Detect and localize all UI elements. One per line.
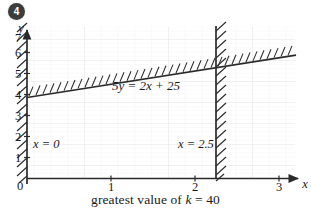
y-tick-label-6: 6 xyxy=(15,46,21,60)
answer-caption: greatest value of k = 40 xyxy=(0,192,311,208)
x-tick-label-3: 3 xyxy=(276,180,282,192)
x-two-point-five-label: x = 2.5 xyxy=(177,137,214,151)
grid xyxy=(27,27,295,178)
caption-prefix: greatest value of xyxy=(91,192,185,207)
y-axis-label: y xyxy=(16,21,24,35)
x-axis-label: x xyxy=(301,177,308,191)
x-tick-label-0: 0 xyxy=(17,179,23,192)
x-tick-label-2: 2 xyxy=(192,180,198,192)
y-tick-label-5: 5 xyxy=(15,67,21,81)
x-tick-label-1: 1 xyxy=(108,180,114,192)
graph-figure: 0 1 2 3 1 2 3 4 5 6 7 x y 5y = 2x + 25 x… xyxy=(0,18,311,192)
x-zero-label: x = 0 xyxy=(32,137,60,151)
equation-label: 5y = 2x + 25 xyxy=(112,78,181,93)
y-tick-label-2: 2 xyxy=(15,130,21,144)
caption-suffix: = 40 xyxy=(192,192,220,207)
y-tick-label-3: 3 xyxy=(15,109,21,123)
y-tick-label-4: 4 xyxy=(15,88,22,102)
y-tick-label-1: 1 xyxy=(15,151,21,165)
graph-svg: 0 1 2 3 1 2 3 4 5 6 7 x y 5y = 2x + 25 x… xyxy=(0,18,311,192)
